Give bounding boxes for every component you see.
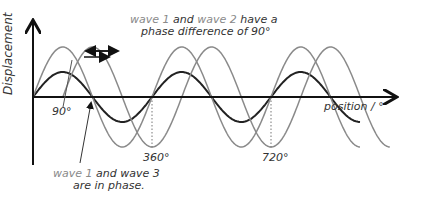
in-phase-line2: are in phase. xyxy=(73,180,145,192)
tick-90: 90° xyxy=(52,106,72,118)
tick-720: 720° xyxy=(262,152,289,164)
phase-difference-line2: phase difference of 90° xyxy=(141,26,271,38)
pointer-to-90 xyxy=(63,60,72,107)
tick-360: 360° xyxy=(143,152,170,164)
y-axis-label: Displacement xyxy=(1,35,15,95)
x-axis-label: position / ° xyxy=(324,101,384,113)
in-phase-pointer xyxy=(80,103,91,163)
